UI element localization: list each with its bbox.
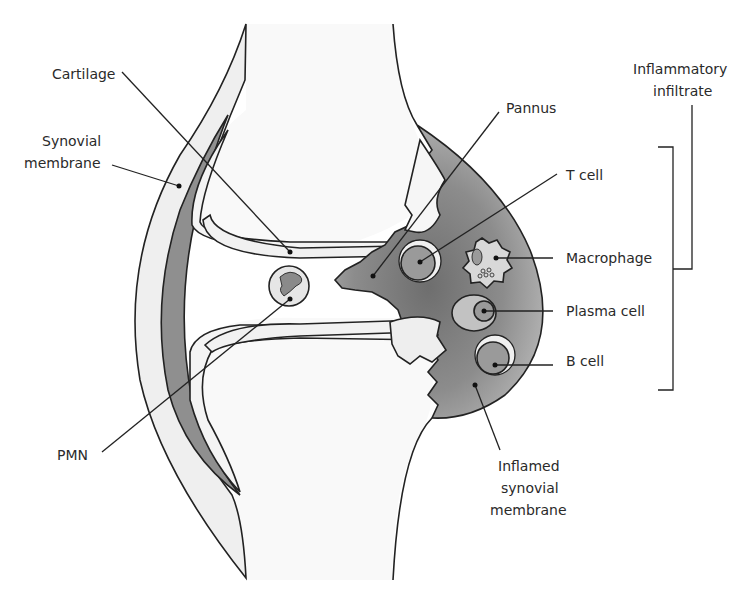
label-cartilage: Cartilage	[52, 66, 115, 82]
label-inflamed-line1: Inflamed	[498, 458, 560, 474]
label-synovial-membrane-line1: Synovial	[42, 133, 101, 149]
macrophage-nucleus	[472, 249, 482, 265]
rheumatoid-joint-diagram: Cartilage Synovial membrane PMN Pannus T…	[0, 0, 755, 591]
joint-capsule	[135, 24, 246, 578]
label-t-cell: T cell	[565, 167, 603, 183]
label-inflammatory-line2: infiltrate	[653, 83, 712, 99]
label-inflamed-line2: synovial	[501, 480, 559, 496]
label-pannus: Pannus	[506, 100, 556, 116]
label-inflamed-line3: membrane	[490, 502, 567, 518]
infiltrate-bracket	[658, 147, 673, 390]
label-pmn: PMN	[57, 447, 88, 463]
label-inflammatory-line1: Inflammatory	[633, 61, 727, 77]
infiltrate-bracket-arm	[673, 105, 692, 269]
label-synovial-membrane-line2: membrane	[24, 155, 101, 171]
label-macrophage: Macrophage	[566, 250, 652, 266]
diagram-stage: Cartilage Synovial membrane PMN Pannus T…	[0, 0, 755, 591]
b-cell	[477, 342, 509, 374]
label-b-cell: B cell	[566, 353, 604, 369]
label-plasma-cell: Plasma cell	[566, 303, 645, 319]
eroded-bone-lower	[390, 317, 446, 364]
upper-bone	[190, 24, 440, 247]
